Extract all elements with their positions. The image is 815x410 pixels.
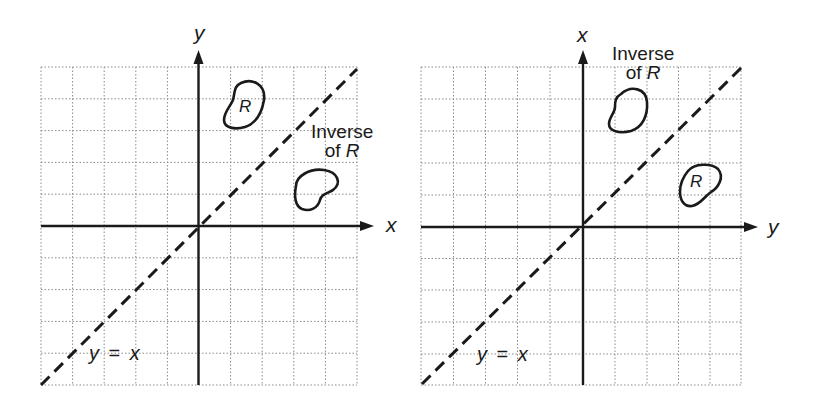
line-equation-label: y = x — [477, 344, 528, 364]
horizontal-axis-arrow-icon — [360, 221, 374, 231]
inverse-of-r-label: Inverse of R — [612, 44, 674, 82]
right-graph-canvas — [405, 0, 815, 410]
vertical-axis-arrow-icon — [194, 50, 204, 64]
inverse-label-line2: of R — [612, 63, 674, 82]
vertical-axis-arrow-icon — [578, 50, 588, 64]
left-graph-canvas — [0, 0, 407, 410]
left-graph-panel: y x R Inverse of R y = x — [0, 0, 407, 410]
vertical-axis-label: x — [577, 24, 588, 45]
inverse-label-line1: Inverse — [311, 122, 373, 141]
inverse-of-r-label: Inverse of R — [311, 122, 373, 160]
horizontal-axis-arrow-icon — [744, 222, 758, 232]
horizontal-axis-label: y — [768, 216, 779, 237]
region-r-label: R — [690, 173, 702, 190]
region-r-label: R — [239, 98, 251, 115]
inverse-region-shape — [295, 170, 338, 210]
inverse-label-line2: of R — [311, 141, 373, 160]
line-equation-label: y = x — [89, 343, 140, 363]
right-graph-panel: x y R Inverse of R y = x — [405, 0, 812, 410]
horizontal-axis-label: x — [386, 214, 397, 235]
inverse-label-line1: Inverse — [612, 44, 674, 63]
vertical-axis-label: y — [194, 22, 205, 43]
